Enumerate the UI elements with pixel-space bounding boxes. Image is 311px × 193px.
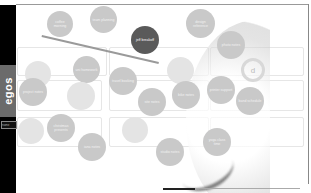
bubble-empty[interactable] [67, 82, 95, 110]
bubble-iana-notes[interactable]: iana notes [78, 133, 106, 161]
bubble-empty[interactable] [18, 118, 44, 144]
bubble-band-schedule[interactable]: band schedule [236, 87, 264, 115]
bubble-printer-support[interactable]: printer support [207, 76, 235, 104]
top-border [16, 4, 308, 5]
bubble-travel-booking[interactable]: travel booking [109, 67, 137, 95]
bubble-bike-notes[interactable]: bike notes [172, 81, 200, 109]
bubble-christmas-presents[interactable]: christmas presents [47, 114, 75, 142]
bubble-design-reference[interactable]: design reference [186, 9, 215, 38]
bubble-project-notes[interactable]: project notes [19, 78, 47, 106]
bubble-empty[interactable] [167, 57, 194, 84]
bottom-bar [163, 188, 195, 190]
bubble-jeff-breakoff[interactable]: jeff breakoff [131, 26, 159, 54]
name-field[interactable]: name [1, 121, 17, 129]
right-border [308, 4, 309, 184]
bubble-empty[interactable] [122, 117, 148, 143]
bottom-line [195, 188, 300, 189]
bubble-studio-notes[interactable]: studio notes [156, 138, 184, 166]
bubble-site-notes[interactable]: site notes [138, 88, 166, 116]
dial-icon[interactable]: d [241, 58, 265, 82]
bubble-uni-homework[interactable]: uni homework [73, 56, 100, 83]
bubble-yoga-class-time[interactable]: yoga class time [203, 128, 231, 156]
bubble-photo-notes[interactable]: photo notes [217, 31, 245, 59]
bubble-coffee-morning[interactable]: coffee morning [47, 11, 73, 37]
bubble-team-planning[interactable]: team planning [90, 6, 117, 33]
brand-logo: egos [2, 77, 14, 105]
brand-tab[interactable]: egos [0, 65, 16, 117]
